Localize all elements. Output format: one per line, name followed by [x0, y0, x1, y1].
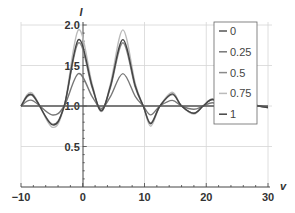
y-tick-label: 2.0 [64, 19, 79, 31]
x-tick-label: 20 [200, 191, 212, 203]
x-tick-label: 10 [138, 191, 150, 203]
x-axis-label: v [280, 180, 287, 192]
x-tick-label: 0 [80, 191, 86, 203]
legend: 00.250.50.751 [214, 22, 257, 124]
y-axis-label: I [79, 6, 83, 18]
legend-label: 0.5 [230, 67, 245, 79]
line-chart: −1001020300.51.01.52.0 I v 00.250.50.751 [0, 0, 295, 213]
legend-label: 0.75 [230, 87, 251, 99]
x-tick-label: 30 [262, 191, 274, 203]
y-tick-label: 0.5 [64, 141, 79, 153]
x-tick-label: −10 [12, 191, 31, 203]
legend-label: 0 [230, 25, 236, 37]
legend-label: 1 [230, 108, 236, 120]
legend-label: 0.25 [230, 46, 251, 58]
